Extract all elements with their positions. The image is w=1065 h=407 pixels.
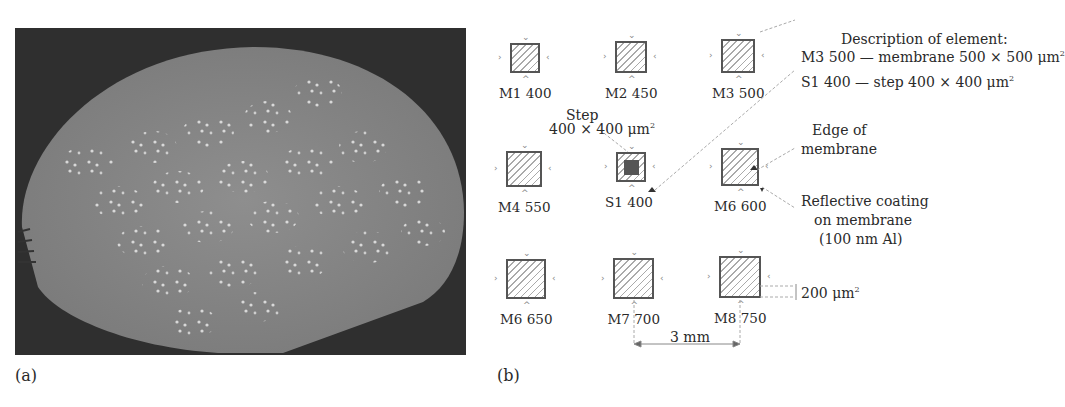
edge-label-line1: Edge of — [812, 123, 867, 137]
coating-label-line3: (100 nm Al) — [819, 232, 902, 246]
coating-label-line1: Reflective coating — [801, 194, 929, 208]
edge-label-line2: membrane — [801, 142, 877, 156]
description-title: Description of element: — [841, 32, 1008, 46]
coating-label-line2: on membrane — [814, 213, 912, 227]
step-size: 400 × 400 μm2 — [549, 122, 655, 136]
dimension-3mm: 3 mm — [670, 330, 710, 344]
description-s1: S1 400 — step 400 × 400 μm2 — [801, 75, 1014, 89]
step-title: Step — [566, 108, 598, 122]
dimension-200um: 200 μm2 — [801, 286, 860, 300]
description-m3: M3 500 — membrane 500 × 500 μm2 — [801, 50, 1065, 64]
